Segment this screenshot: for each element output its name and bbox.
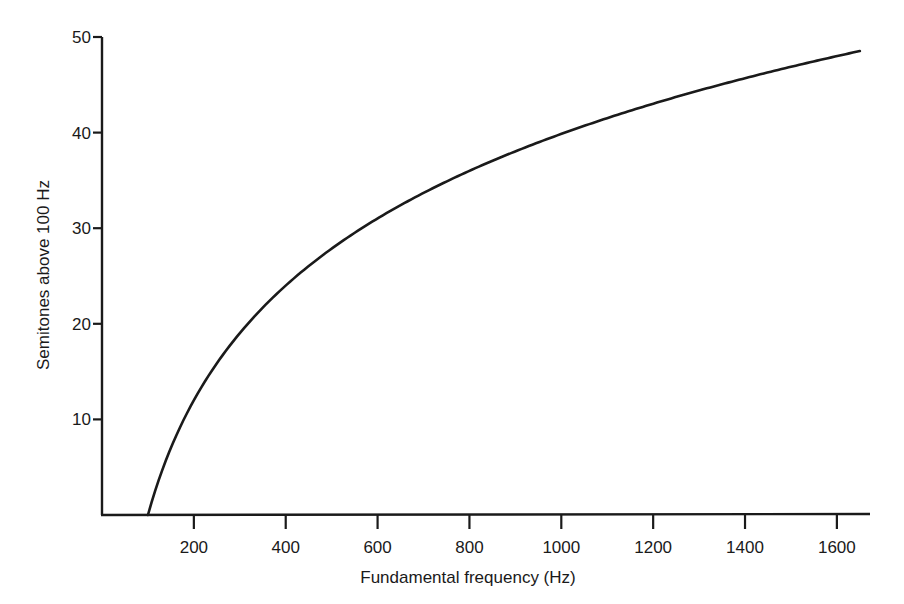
semitone-frequency-chart: 2004006008001000120014001600 1020304050 … <box>0 0 904 604</box>
y-axis-ticks: 1020304050 <box>72 28 102 429</box>
x-tick-label: 1600 <box>818 538 856 557</box>
x-axis-line <box>101 514 870 515</box>
y-tick-label: 30 <box>72 219 91 238</box>
x-axis-title: Fundamental frequency (Hz) <box>360 568 575 587</box>
x-tick-label: 1200 <box>634 538 672 557</box>
x-tick-label: 200 <box>180 538 208 557</box>
data-line <box>148 51 860 515</box>
y-tick-label: 50 <box>72 28 91 47</box>
y-tick-label: 20 <box>72 315 91 334</box>
x-tick-label: 400 <box>272 538 300 557</box>
x-tick-label: 1400 <box>726 538 764 557</box>
x-axis-ticks: 2004006008001000120014001600 <box>180 515 856 557</box>
x-tick-label: 1000 <box>542 538 580 557</box>
x-tick-label: 800 <box>455 538 483 557</box>
y-axis-title: Semitones above 100 Hz <box>34 180 53 370</box>
y-tick-label: 10 <box>72 410 91 429</box>
x-tick-label: 600 <box>363 538 391 557</box>
y-tick-label: 40 <box>72 124 91 143</box>
axes <box>101 37 870 515</box>
